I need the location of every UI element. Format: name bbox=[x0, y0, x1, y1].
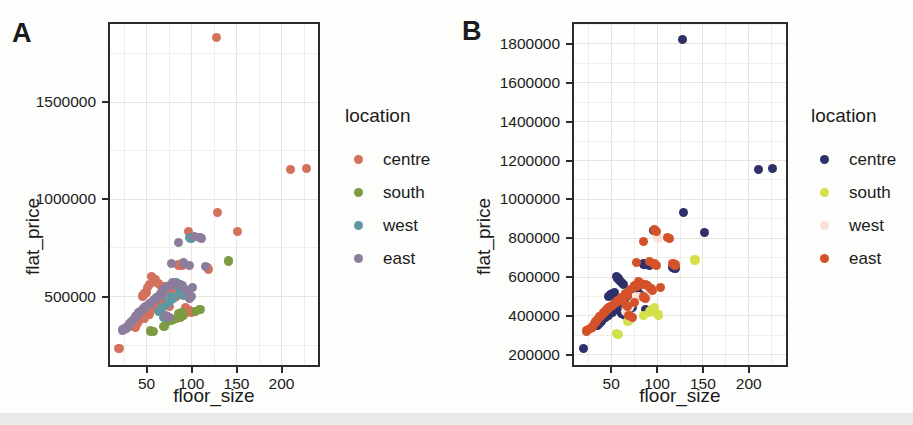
scatter-point-south bbox=[159, 322, 168, 331]
y-tick-label: 1200000 bbox=[456, 152, 560, 170]
legend-dot-icon bbox=[820, 254, 829, 263]
gridline-vertical bbox=[259, 24, 260, 365]
legend-item-south[interactable]: south bbox=[345, 176, 430, 209]
gridline-vertical bbox=[281, 24, 282, 365]
gridline-horizontal bbox=[574, 141, 786, 142]
y-tick-mark bbox=[566, 160, 572, 162]
scatter-point-south bbox=[690, 255, 699, 264]
legend-dot-icon bbox=[820, 221, 829, 230]
figure-bottom-band bbox=[0, 413, 913, 425]
scatter-point-centre bbox=[286, 165, 295, 174]
y-tick-label: 800000 bbox=[456, 229, 560, 247]
scatter-point-east bbox=[118, 325, 127, 334]
scatter-point-south bbox=[174, 309, 183, 318]
scatter-point-east bbox=[185, 293, 194, 302]
scatter-point-south bbox=[224, 256, 233, 265]
gridline-horizontal bbox=[110, 102, 318, 103]
figure-canvas: A flat_price 500000100000015000005010015… bbox=[0, 0, 913, 425]
scatter-point-south bbox=[646, 306, 655, 315]
y-tick-mark bbox=[566, 198, 572, 200]
legend-label-centre: centre bbox=[383, 150, 430, 170]
legend-dot-icon bbox=[354, 254, 363, 263]
gridline-horizontal bbox=[574, 24, 786, 25]
gridline-vertical bbox=[725, 24, 726, 365]
y-tick-mark bbox=[102, 198, 108, 200]
panel-a-plot-area bbox=[108, 22, 320, 367]
legend-item-west[interactable]: west bbox=[811, 209, 896, 242]
y-tick-mark bbox=[566, 121, 572, 123]
gridline-horizontal bbox=[574, 238, 786, 239]
gridline-horizontal bbox=[574, 102, 786, 103]
legend-label-west: west bbox=[849, 216, 884, 236]
y-tick-mark bbox=[566, 354, 572, 356]
scatter-point-east bbox=[670, 260, 679, 269]
legend-label-east: east bbox=[849, 249, 881, 269]
x-tick-mark bbox=[281, 367, 283, 373]
scatter-point-centre bbox=[213, 208, 222, 217]
y-tick-mark bbox=[566, 43, 572, 45]
y-tick-mark bbox=[566, 82, 572, 84]
scatter-point-south bbox=[613, 330, 622, 339]
x-tick-mark bbox=[236, 367, 238, 373]
scatter-point-east bbox=[639, 237, 648, 246]
legend-label-east: east bbox=[383, 249, 415, 269]
legend-swatch-centre-icon bbox=[811, 155, 837, 164]
legend-label-centre: centre bbox=[849, 150, 896, 170]
panel-b-legend: location centresouthwesteast bbox=[811, 105, 896, 275]
legend-swatch-east-icon bbox=[345, 254, 371, 263]
scatter-point-east bbox=[174, 238, 183, 247]
y-tick-label: 200000 bbox=[456, 346, 560, 364]
scatter-point-centre bbox=[233, 227, 242, 236]
y-tick-label: 1000000 bbox=[0, 190, 96, 208]
gridline-horizontal bbox=[574, 63, 786, 64]
legend-item-west[interactable]: west bbox=[345, 209, 430, 242]
gridline-horizontal bbox=[110, 247, 318, 248]
scatter-point-east bbox=[628, 313, 637, 322]
scatter-point-south bbox=[191, 307, 200, 316]
panel-a-legend-title: location bbox=[345, 105, 430, 127]
legend-item-east[interactable]: east bbox=[811, 242, 896, 275]
gridline-horizontal bbox=[110, 53, 318, 54]
legend-swatch-east-icon bbox=[811, 254, 837, 263]
scatter-point-centre bbox=[579, 344, 588, 353]
scatter-point-east bbox=[582, 326, 591, 335]
scatter-point-east bbox=[641, 294, 650, 303]
scatter-point-east bbox=[185, 261, 194, 270]
y-tick-label: 1500000 bbox=[0, 93, 96, 111]
legend-dot-icon bbox=[354, 221, 363, 230]
scatter-point-south bbox=[149, 327, 158, 336]
legend-item-south[interactable]: south bbox=[811, 176, 896, 209]
scatter-point-east bbox=[652, 261, 661, 270]
legend-swatch-south-icon bbox=[345, 188, 371, 197]
y-tick-label: 600000 bbox=[456, 268, 560, 286]
y-tick-mark bbox=[102, 101, 108, 103]
y-tick-label: 500000 bbox=[0, 288, 96, 306]
scatter-point-centre bbox=[700, 228, 709, 237]
legend-item-centre[interactable]: centre bbox=[345, 143, 430, 176]
panel-a-legend: location centresouthwesteast bbox=[345, 105, 430, 275]
gridline-vertical bbox=[588, 24, 589, 365]
x-tick-mark bbox=[191, 367, 193, 373]
gridline-horizontal bbox=[574, 82, 786, 83]
x-tick-mark bbox=[656, 367, 658, 373]
gridline-horizontal bbox=[110, 199, 318, 200]
scatter-point-east bbox=[167, 259, 176, 268]
legend-dot-icon bbox=[354, 155, 363, 164]
scatter-point-centre bbox=[754, 165, 763, 174]
gridline-vertical bbox=[771, 24, 772, 365]
gridline-vertical bbox=[702, 24, 703, 365]
legend-item-east[interactable]: east bbox=[345, 242, 430, 275]
panel-b-x-axis-title: floor_size bbox=[572, 385, 788, 407]
scatter-point-centre bbox=[302, 164, 311, 173]
gridline-horizontal bbox=[110, 150, 318, 151]
gridline-vertical bbox=[748, 24, 749, 365]
scatter-point-centre bbox=[768, 164, 777, 173]
y-tick-label: 1000000 bbox=[456, 190, 560, 208]
legend-item-centre[interactable]: centre bbox=[811, 143, 896, 176]
scatter-point-centre bbox=[114, 344, 123, 353]
y-tick-label: 400000 bbox=[456, 307, 560, 325]
panel-b-plot-area bbox=[572, 22, 788, 367]
panel-b-legend-title: location bbox=[811, 105, 896, 127]
y-tick-mark bbox=[102, 296, 108, 298]
scatter-point-east bbox=[632, 258, 641, 267]
